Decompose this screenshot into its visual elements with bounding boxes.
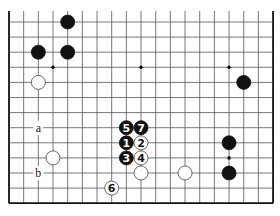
white-stone-move-6: 6 [105,181,119,195]
move-number: 2 [137,137,145,150]
black-stone [222,136,236,150]
black-stone-icon [237,75,251,89]
black-stone [31,45,45,59]
position-marker-b: b [35,166,41,180]
black-stone-move-5: 5 [119,121,133,135]
move-number: 4 [137,152,145,165]
black-stone-move-1: 1 [119,136,133,150]
star-point-icon [227,66,231,70]
white-stone-icon [46,151,60,165]
white-stone-icon [178,166,192,180]
position-marker-a: a [36,121,42,135]
black-stone [61,15,75,29]
black-stone [61,45,75,59]
black-stone-icon [222,136,236,150]
star-point-icon [139,66,143,70]
black-stone-icon [222,166,236,180]
white-stone-icon [31,75,45,89]
black-stone [222,166,236,180]
white-stone [46,151,60,165]
white-stone-icon [134,166,148,180]
white-stone [134,166,148,180]
star-point-icon [227,156,231,160]
move-number: 7 [137,122,145,135]
black-stone-icon [61,45,75,59]
black-stone-move-3: 3 [119,151,133,165]
go-board: ab 5712346 [0,0,280,216]
black-stone-move-7: 7 [134,121,148,135]
white-stone [31,75,45,89]
black-stone-icon [31,45,45,59]
move-number: 1 [123,137,131,150]
white-stone-move-2: 2 [134,136,148,150]
move-number: 6 [108,182,116,195]
star-point-icon [51,66,55,70]
white-stone-move-4: 4 [134,151,148,165]
black-stone-icon [61,15,75,29]
move-number: 5 [123,122,131,135]
black-stone [237,75,251,89]
move-number: 3 [123,152,131,165]
white-stone [178,166,192,180]
